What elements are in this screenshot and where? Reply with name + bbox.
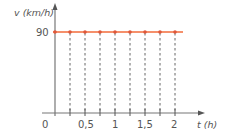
x-axis-arrow-icon [198,111,205,116]
x-tick-label-1: 1 [112,119,118,130]
data-points [53,30,177,34]
x-tick-label-2: 2 [171,119,177,130]
x-tick-label-1-5: 1,5 [137,119,153,130]
x-axis-label: t (h) [197,119,217,130]
origin-label: 0 [42,119,48,130]
y-tick-90: 90 [36,27,49,38]
drop-lines [70,33,175,113]
x-tick-label-0-5: 0,5 [78,119,94,130]
chart-canvas: v (km/h) 90 0 0,5 1 1,5 2 t (h) [0,0,230,139]
y-axis-label: v (km/h) [14,7,54,18]
